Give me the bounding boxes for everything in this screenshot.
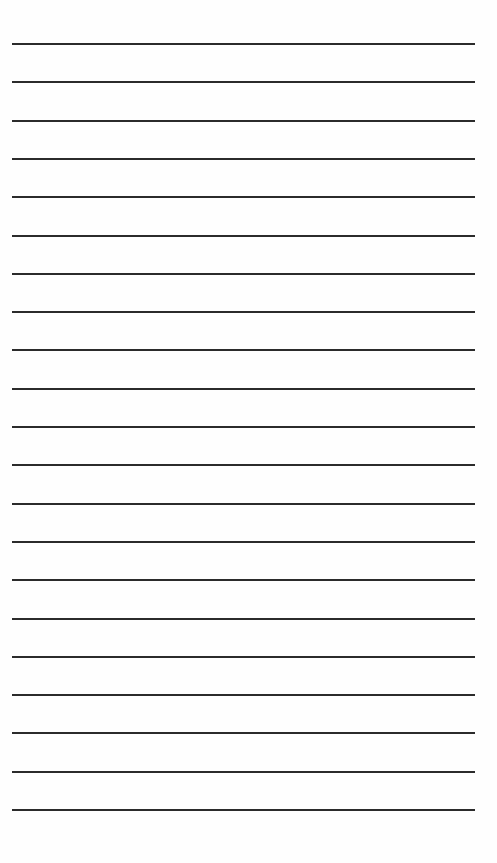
ruled-line	[12, 618, 475, 620]
ruled-line	[12, 196, 475, 198]
ruled-line	[12, 503, 475, 505]
ruled-line	[12, 464, 475, 466]
ruled-line	[12, 426, 475, 428]
ruled-line	[12, 771, 475, 773]
ruled-line	[12, 349, 475, 351]
ruled-line	[12, 388, 475, 390]
ruled-line	[12, 732, 475, 734]
lined-paper-page	[0, 0, 497, 863]
ruled-line	[12, 81, 475, 83]
ruled-line	[12, 809, 475, 811]
ruled-line	[12, 541, 475, 543]
ruled-line	[12, 43, 475, 45]
ruled-line	[12, 120, 475, 122]
ruled-line	[12, 311, 475, 313]
ruled-line	[12, 579, 475, 581]
ruled-line	[12, 656, 475, 658]
ruled-line	[12, 235, 475, 237]
ruled-line	[12, 694, 475, 696]
ruled-line	[12, 273, 475, 275]
ruled-line	[12, 158, 475, 160]
